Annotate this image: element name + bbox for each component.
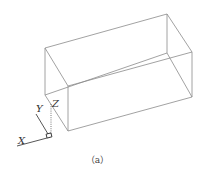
figure-caption: （a） xyxy=(0,153,195,166)
edge-front-top xyxy=(68,52,192,86)
edge-top-left-depth xyxy=(45,48,68,86)
y-axis-label: Y xyxy=(36,103,44,114)
edge-front-bottom xyxy=(68,97,192,131)
x-axis-label: X xyxy=(17,135,26,146)
z-axis-label: Z xyxy=(51,98,60,109)
box-wireframe xyxy=(45,14,192,131)
coordinate-axes: Z Y X xyxy=(17,98,60,146)
edge-bottom-right-depth xyxy=(167,53,192,97)
y-axis-line xyxy=(36,114,48,134)
edge-back-top xyxy=(45,14,167,48)
wireframe-box-diagram: Z Y X xyxy=(0,0,211,178)
origin-marker xyxy=(46,133,52,138)
edge-top-right-depth xyxy=(167,14,192,52)
edge-back-bottom xyxy=(45,53,167,95)
